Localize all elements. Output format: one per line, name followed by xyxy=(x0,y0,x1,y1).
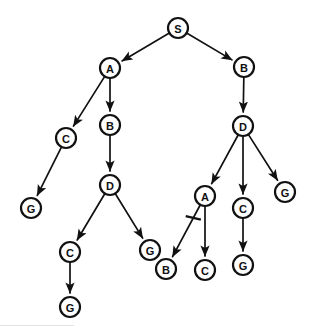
tree-node-g[interactable]: G xyxy=(21,198,41,218)
edge-C-to-G xyxy=(37,147,61,195)
node-label: C xyxy=(66,247,74,259)
edge-S-to-B xyxy=(187,33,232,60)
search-tree-graph: SABCBDGDACGCGBCGG xyxy=(0,0,313,329)
node-label: C xyxy=(239,203,247,215)
tree-node-d[interactable]: D xyxy=(233,116,253,136)
tree-node-g[interactable]: G xyxy=(275,182,295,202)
edge-A-to-C xyxy=(73,77,104,126)
tree-node-d[interactable]: D xyxy=(100,175,120,195)
page-edge-artifact xyxy=(0,325,74,326)
node-label: B xyxy=(162,264,170,276)
node-label: B xyxy=(106,120,114,132)
edge-D-to-G xyxy=(249,135,278,180)
node-label: G xyxy=(239,260,248,272)
tree-node-b[interactable]: B xyxy=(234,57,254,77)
node-label: S xyxy=(174,23,181,35)
edge-B-to-D xyxy=(243,77,244,112)
node-layer: SABCBDGDACGCGBCGG xyxy=(21,18,295,317)
tree-node-c[interactable]: C xyxy=(60,242,80,262)
edge-D-to-C xyxy=(77,194,104,240)
node-label: G xyxy=(66,302,75,314)
node-label: G xyxy=(146,245,155,257)
edge-D-to-G xyxy=(116,194,143,238)
tree-node-s[interactable]: S xyxy=(168,18,188,38)
tree-node-g[interactable]: G xyxy=(140,240,160,260)
tree-node-c[interactable]: C xyxy=(233,198,253,218)
tree-node-a[interactable]: A xyxy=(195,186,215,206)
node-label: B xyxy=(240,62,248,74)
tree-node-b[interactable]: B xyxy=(156,259,176,279)
node-label: G xyxy=(27,203,36,215)
node-label: C xyxy=(62,133,70,145)
node-label: A xyxy=(201,191,209,203)
node-label: D xyxy=(239,121,247,133)
node-label: G xyxy=(281,187,290,199)
edge-S-to-A xyxy=(122,33,169,61)
tree-node-c[interactable]: C xyxy=(56,128,76,148)
edge-A-to-B xyxy=(173,205,200,256)
tree-node-b[interactable]: B xyxy=(100,115,120,135)
tree-node-g[interactable]: G xyxy=(60,297,80,317)
tree-node-a[interactable]: A xyxy=(100,58,120,78)
tree-node-c[interactable]: C xyxy=(195,260,215,280)
diagram-canvas: SABCBDGDACGCGBCGG xyxy=(0,0,313,329)
node-label: D xyxy=(106,180,114,192)
node-label: C xyxy=(201,265,209,277)
edge-D-to-A xyxy=(212,135,238,183)
tree-node-g[interactable]: G xyxy=(233,255,253,275)
node-label: A xyxy=(106,63,114,75)
